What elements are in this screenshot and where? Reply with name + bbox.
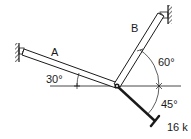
member-a-label: A xyxy=(51,46,59,58)
load-value-label: 16 k xyxy=(167,121,188,133)
angle-30-label: 30° xyxy=(46,73,63,85)
angle-arc-60 xyxy=(140,50,159,86)
angle-45-label: 45° xyxy=(161,98,178,110)
member-b-label: B xyxy=(131,22,138,34)
load-arrow xyxy=(117,86,159,126)
angle-arc-45 xyxy=(147,86,159,115)
member-a xyxy=(22,49,118,88)
angle-60-label: 60° xyxy=(158,56,175,68)
truss-diagram: A B 30° 60° 45° 16 k xyxy=(0,0,191,139)
